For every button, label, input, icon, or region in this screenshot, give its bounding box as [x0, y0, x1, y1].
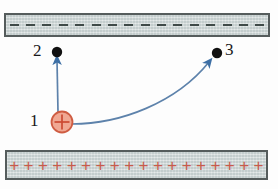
capacitor-figure: ++++++++++++++++++ 1 2 3: [0, 0, 278, 189]
negative-charge-symbol: [190, 24, 199, 26]
positive-charge-symbol: +: [196, 157, 206, 174]
point-label-2: 2: [33, 42, 42, 59]
positive-charge-symbol: +: [38, 157, 48, 174]
negative-charge-symbol: [26, 24, 35, 26]
positive-charge-symbol: +: [81, 157, 91, 174]
point-label-3: 3: [225, 41, 234, 58]
positive-charge-symbol: +: [139, 157, 149, 174]
curved-arrow-1-to-3: [72, 62, 209, 124]
negative-charge-symbol: [42, 24, 51, 26]
positive-charge-symbol: +: [95, 157, 105, 174]
negative-charge-symbol: [206, 24, 215, 26]
point-3-dot: [212, 48, 222, 58]
negative-charge-symbol: [124, 24, 133, 26]
negative-charge-symbol: [157, 24, 166, 26]
positive-charge-symbol: +: [210, 157, 220, 174]
negative-charge-symbol: [223, 24, 232, 26]
negative-charge-symbol: [141, 24, 150, 26]
positive-charge-symbol: +: [9, 157, 19, 174]
negative-charge-symbol: [108, 24, 117, 26]
positive-plate: ++++++++++++++++++: [5, 150, 268, 180]
test-charge-body: [52, 112, 73, 133]
positive-charge-symbol: +: [24, 157, 34, 174]
point-2-dot: [52, 47, 62, 57]
negative-charge-symbol: [75, 24, 84, 26]
negative-charge-symbol: [239, 24, 248, 26]
negative-charge-symbol: [59, 24, 68, 26]
negative-charge-symbol: [10, 24, 19, 26]
positive-charge-symbol: +: [110, 157, 120, 174]
negative-plate: [4, 13, 270, 37]
charge-label-1: 1: [30, 112, 39, 129]
positive-charge-symbol: +: [124, 157, 134, 174]
positive-charge-symbol: +: [153, 157, 163, 174]
positive-charge-symbol: +: [239, 157, 249, 174]
positive-charge-symbol: +: [182, 157, 192, 174]
negative-charge-symbol: [255, 24, 264, 26]
positive-charge-symbol: +: [225, 157, 235, 174]
positive-charge-symbol: +: [67, 157, 77, 174]
straight-arrow-1-to-2: [57, 60, 58, 112]
positive-charge-symbol: +: [254, 157, 264, 174]
negative-charge-symbol: [92, 24, 101, 26]
positive-charge-symbol: +: [52, 157, 62, 174]
positive-charge-symbol: +: [167, 157, 177, 174]
negative-charge-symbol: [173, 24, 182, 26]
